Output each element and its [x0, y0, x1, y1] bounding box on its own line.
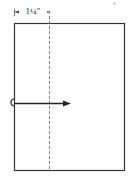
dimension-label: 1¼"	[19, 6, 47, 16]
fold-diagram	[0, 0, 134, 182]
page-outline	[15, 24, 125, 171]
scan-speck	[114, 3, 115, 4]
fold-arrowhead-icon	[63, 101, 71, 107]
